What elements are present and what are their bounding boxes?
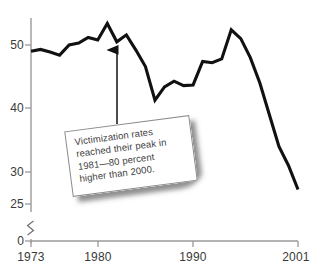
y-tick-label-0: 0 — [0, 234, 24, 248]
y-tick-label-50: 50 — [0, 38, 24, 52]
y-axis-ticks — [25, 45, 31, 241]
axis-break-zigzag — [28, 221, 34, 235]
x-axis-ticks — [31, 241, 298, 247]
chart-figure: 50 40 30 25 0 1973 1980 1990 2001 Victim… — [0, 0, 316, 266]
x-tick-label-1980: 1980 — [78, 250, 118, 264]
y-tick-label-40: 40 — [0, 101, 24, 115]
y-tick-label-25: 25 — [0, 197, 24, 211]
y-tick-label-30: 30 — [0, 165, 24, 179]
x-tick-label-1990: 1990 — [173, 250, 213, 264]
x-tick-label-2001: 2001 — [276, 250, 316, 264]
x-tick-label-1973: 1973 — [11, 250, 51, 264]
